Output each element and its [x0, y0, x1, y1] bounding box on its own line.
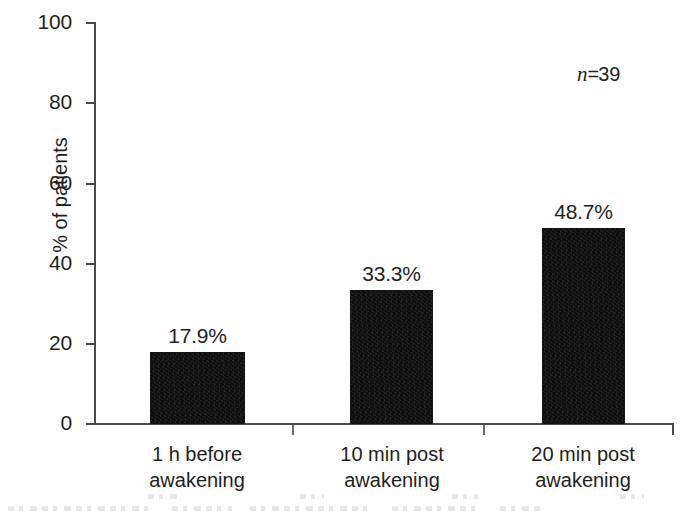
y-axis-tick-0 — [86, 423, 95, 425]
y-axis-label-0: 0 — [2, 412, 72, 433]
x-axis-tick-2 — [483, 425, 485, 435]
y-axis-tick-60 — [86, 183, 95, 185]
x-axis-category-label-2-line2: awakening — [312, 467, 472, 493]
x-axis-category-label-1-line2: awakening — [117, 467, 277, 493]
x-axis-category-label-1: 1 h before awakening — [117, 441, 277, 493]
sample-size-symbol: n — [577, 62, 588, 86]
sample-size-equals: = — [588, 63, 599, 85]
bar-2-10-min-post-awakening — [350, 290, 433, 424]
x-axis-category-label-1-line1: 1 h before — [117, 441, 277, 467]
bar-1-h-before-awakening — [150, 352, 245, 424]
bar-3-value-label: 48.7% — [528, 201, 639, 222]
sample-size-annotation: n=39 — [577, 64, 620, 84]
y-axis-tick-20 — [86, 343, 95, 345]
y-axis-label-20: 20 — [2, 332, 72, 353]
x-axis-tick-1 — [292, 425, 294, 435]
plot-area: 100 80 60 40 20 0 % of patients 17.9% 33… — [0, 0, 700, 514]
bar-chart-figure: 100 80 60 40 20 0 % of patients 17.9% 33… — [0, 0, 700, 514]
y-axis-tick-40 — [86, 263, 95, 265]
y-axis-tick-80 — [86, 102, 95, 104]
bar-3-20-min-post-awakening — [542, 228, 625, 424]
x-axis-tick-right-edge — [672, 425, 674, 435]
y-axis-tick-100 — [86, 22, 95, 24]
x-axis-category-label-3-line1: 20 min post — [503, 441, 663, 467]
x-axis-category-label-3-line2: awakening — [503, 467, 663, 493]
x-axis-category-label-2-line1: 10 min post — [312, 441, 472, 467]
y-axis-line — [94, 22, 96, 425]
bar-1-value-label: 17.9% — [150, 325, 245, 346]
x-axis-category-label-3: 20 min post awakening — [503, 441, 663, 493]
sample-size-value: 39 — [598, 63, 620, 85]
y-axis-title: % of patients — [50, 95, 70, 295]
y-axis-label-100: 100 — [2, 11, 72, 32]
x-axis-category-label-2: 10 min post awakening — [312, 441, 472, 493]
bar-2-value-label: 33.3% — [336, 263, 447, 284]
